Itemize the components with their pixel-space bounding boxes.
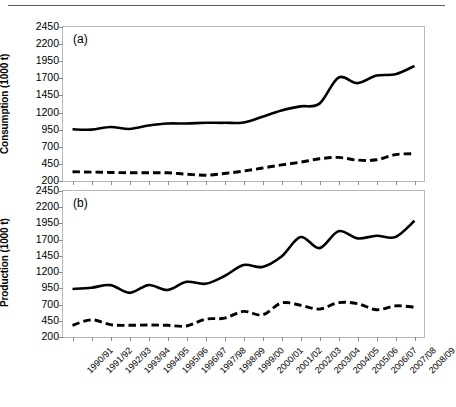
y-tick-mark xyxy=(59,305,63,306)
y-tick-label: 200 xyxy=(41,331,59,342)
plot-area-production: (b) xyxy=(62,190,425,338)
x-tick-mark xyxy=(301,337,302,341)
x-tick-mark xyxy=(92,337,93,341)
y-tick-mark xyxy=(59,191,63,192)
x-tick-mark xyxy=(130,337,131,341)
x-tick-mark xyxy=(263,181,264,185)
x-tick-mark xyxy=(282,337,283,341)
x-tick-mark xyxy=(187,181,188,185)
x-tick-mark xyxy=(206,337,207,341)
x-tick-mark xyxy=(320,337,321,341)
secondary-consumption-line xyxy=(73,154,415,176)
x-tick-mark xyxy=(339,337,340,341)
y-tick-mark xyxy=(59,272,63,273)
y-tick-label: 700 xyxy=(41,141,59,152)
y-tick-label: 1200 xyxy=(36,266,59,277)
y-tick-label: 1700 xyxy=(36,72,59,83)
x-tick-mark xyxy=(339,181,340,185)
y-tick-label: 950 xyxy=(41,282,59,293)
y-tick-mark xyxy=(59,130,63,131)
total-consumption-line xyxy=(73,66,415,130)
y-tick-mark xyxy=(59,61,63,62)
y-tick-label: 450 xyxy=(41,315,59,326)
x-tick-mark xyxy=(168,337,169,341)
x-tick-mark xyxy=(149,337,150,341)
top-divider-rule xyxy=(8,5,445,6)
y-tick-mark xyxy=(59,223,63,224)
x-tick-mark xyxy=(187,337,188,341)
x-tick-mark xyxy=(415,337,416,341)
x-tick-mark xyxy=(149,181,150,185)
x-tick-mark xyxy=(168,181,169,185)
y-tick-label: 450 xyxy=(41,158,59,169)
x-tick-mark xyxy=(301,181,302,185)
y-tick-label: 2450 xyxy=(36,21,59,32)
x-tick-mark xyxy=(244,337,245,341)
consumption-series-svg xyxy=(63,27,424,181)
x-tick-mark xyxy=(111,337,112,341)
panel-consumption: Consumption (1000 t) 2004507009501200145… xyxy=(0,18,447,190)
y-tick-label: 2450 xyxy=(36,185,59,196)
x-tick-mark xyxy=(130,181,131,185)
secondary-production-line xyxy=(73,302,415,326)
x-tick-mark xyxy=(206,181,207,185)
y-tick-label: 1200 xyxy=(36,106,59,117)
x-tick-mark xyxy=(396,337,397,341)
plot-area-consumption: (a) xyxy=(62,26,425,182)
x-tick-mark xyxy=(282,181,283,185)
y-tick-label: 2200 xyxy=(36,201,59,212)
y-tick-mark xyxy=(59,27,63,28)
y-tick-label: 1450 xyxy=(36,250,59,261)
x-axis-tick-labels: 1990/911991/921992/931993/941994/951995/… xyxy=(0,344,447,407)
x-tick-mark xyxy=(377,337,378,341)
panel-production: Production (1000 t) 20045070095012001450… xyxy=(0,186,447,346)
y-tick-mark xyxy=(59,44,63,45)
x-tick-mark xyxy=(244,181,245,185)
y-tick-label: 1700 xyxy=(36,233,59,244)
x-tick-mark xyxy=(320,181,321,185)
y-tick-mark xyxy=(59,337,63,338)
y-tick-mark xyxy=(59,181,63,182)
y-tick-mark xyxy=(59,164,63,165)
y-tick-mark xyxy=(59,240,63,241)
x-tick-mark xyxy=(377,181,378,185)
x-tick-mark xyxy=(73,337,74,341)
x-tick-mark xyxy=(111,181,112,185)
x-tick-mark xyxy=(92,181,93,185)
y-tick-mark xyxy=(59,256,63,257)
y-axis-title-production: Production (1000 t) xyxy=(0,188,10,338)
y-tick-mark xyxy=(59,207,63,208)
y-tick-mark xyxy=(59,147,63,148)
x-tick-mark xyxy=(358,337,359,341)
x-tick-mark xyxy=(225,181,226,185)
y-tick-label: 1950 xyxy=(36,217,59,228)
y-axis-title-consumption: Consumption (1000 t) xyxy=(0,24,10,184)
y-tick-mark xyxy=(59,321,63,322)
x-tick-mark xyxy=(396,181,397,185)
x-tick-mark xyxy=(73,181,74,185)
y-tick-label: 700 xyxy=(41,298,59,309)
y-tick-label: 1450 xyxy=(36,89,59,100)
total-production-line xyxy=(73,221,415,293)
y-tick-mark xyxy=(59,288,63,289)
x-tick-mark xyxy=(263,337,264,341)
x-tick-mark xyxy=(225,337,226,341)
y-tick-mark xyxy=(59,113,63,114)
y-tick-label: 1950 xyxy=(36,55,59,66)
y-tick-label: 950 xyxy=(41,123,59,134)
y-tick-mark xyxy=(59,95,63,96)
y-tick-label: 2200 xyxy=(36,38,59,49)
x-tick-mark xyxy=(358,181,359,185)
x-tick-mark xyxy=(415,181,416,185)
production-series-svg xyxy=(63,191,424,337)
y-tick-mark xyxy=(59,78,63,79)
